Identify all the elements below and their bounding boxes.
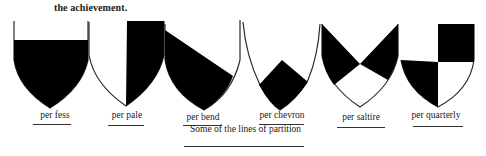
shield-per-saltire bbox=[322, 24, 398, 107]
label-per-bend: per bend bbox=[187, 112, 220, 122]
label-per-quarterly: per quarterly bbox=[412, 110, 461, 120]
underline-per-saltire bbox=[337, 127, 385, 128]
shield-per-pale bbox=[89, 21, 164, 106]
caption-underline bbox=[184, 146, 304, 147]
underline-per-quarterly bbox=[413, 126, 463, 127]
label-per-pale: per pale bbox=[112, 110, 142, 120]
shield-per-chevron bbox=[243, 22, 320, 110]
label-per-chevron: per chevron bbox=[259, 110, 304, 120]
shield-per-bend bbox=[165, 20, 240, 110]
label-per-fess: per fess bbox=[40, 110, 69, 120]
underline-per-fess bbox=[33, 124, 71, 125]
underline-per-pale bbox=[108, 125, 144, 126]
shield-per-fess bbox=[14, 21, 88, 108]
label-per-saltire: per saltire bbox=[342, 112, 380, 122]
shield-per-quarterly bbox=[401, 24, 474, 107]
figure-caption: Some of the lines of partition bbox=[190, 124, 301, 134]
